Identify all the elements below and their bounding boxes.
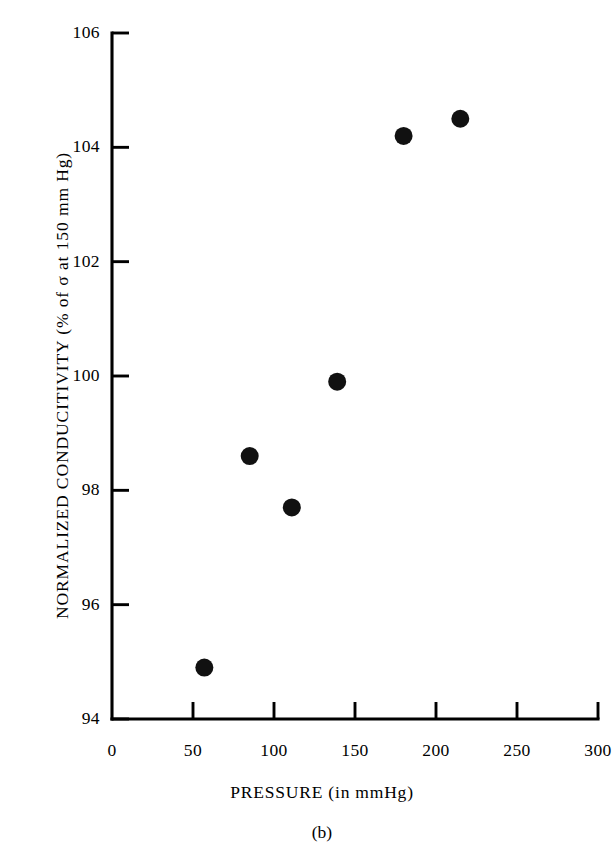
data-point-marker (241, 447, 259, 465)
y-tick-label: 106 (54, 24, 100, 42)
x-tick-label: 0 (90, 742, 134, 760)
data-point-marker (395, 127, 413, 145)
data-point-marker (451, 110, 469, 128)
x-tick-label: 300 (576, 742, 616, 760)
x-tick-label: 250 (495, 742, 539, 760)
x-tick-label: 150 (333, 742, 377, 760)
figure-panel-b: 949698100102104106 050100150200250300 NO… (0, 0, 616, 855)
data-points (195, 110, 469, 677)
x-tick-label: 100 (252, 742, 296, 760)
y-tick-label: 94 (54, 710, 100, 728)
x-tick-label: 200 (414, 742, 458, 760)
y-axis-title: NORMALIZED CONDUCITIVITY (% of σ at 150 … (52, 106, 73, 666)
axes (112, 33, 598, 719)
data-point-marker (283, 498, 301, 516)
x-axis-title: PRESSURE (in mmHg) (112, 782, 532, 803)
figure-caption: (b) (112, 822, 532, 843)
x-axis-ticks (193, 702, 598, 719)
data-point-marker (195, 659, 213, 677)
x-tick-label: 50 (171, 742, 215, 760)
y-axis-ticks (112, 33, 129, 719)
data-point-marker (328, 373, 346, 391)
